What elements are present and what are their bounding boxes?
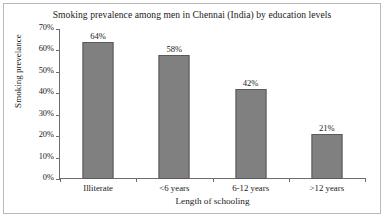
bar-slot: 21% [289,29,365,179]
y-axis-tick-label: 40% [39,87,54,96]
y-axis-tick-label: 50% [39,66,54,75]
y-axis-tick-label: 70% [39,23,54,32]
x-axis-tick-mark [213,178,214,182]
x-axis-tick-mark [289,178,290,182]
x-axis-category-label: <6 years [159,183,189,193]
x-axis-category-labels: Illiterate<6 years6-12 years>12 years [60,183,365,197]
y-axis-tick-label: 20% [39,130,54,139]
bar[interactable] [83,42,114,179]
y-axis-title: Smoking prevelance [13,11,23,131]
x-axis-category-label: Illiterate [83,183,113,193]
bar-slot: 42% [213,29,289,179]
bar-slot: 64% [60,29,136,179]
bar-slot: 58% [136,29,212,179]
x-axis-tick-mark [60,178,61,182]
bar[interactable] [159,55,190,179]
plot-area: 0%10%20%30%40%50%60%70% Smoking prevelan… [4,4,382,215]
y-axis-tick-label: 60% [39,44,54,53]
bar[interactable] [311,134,342,179]
bar-value-label: 64% [90,31,106,41]
x-axis-tick-mark [365,178,366,182]
x-axis-tick-mark [136,178,137,182]
bar[interactable] [235,89,266,179]
y-axis-tick-label: 10% [39,152,54,161]
y-axis-tick-label: 0% [43,173,54,182]
bar-value-label: 21% [319,123,335,133]
bar-value-label: 58% [166,44,182,54]
x-axis-category-label: 6-12 years [232,183,269,193]
y-axis-tick-label: 30% [39,109,54,118]
bars-layer: 64%58%42%21% [60,29,365,179]
x-axis-title: Length of schooling [60,196,365,206]
chart-figure-frame: Smoking prevalence among men in Chennai … [3,3,381,214]
bar-value-label: 42% [243,78,259,88]
x-axis-category-label: >12 years [310,183,345,193]
